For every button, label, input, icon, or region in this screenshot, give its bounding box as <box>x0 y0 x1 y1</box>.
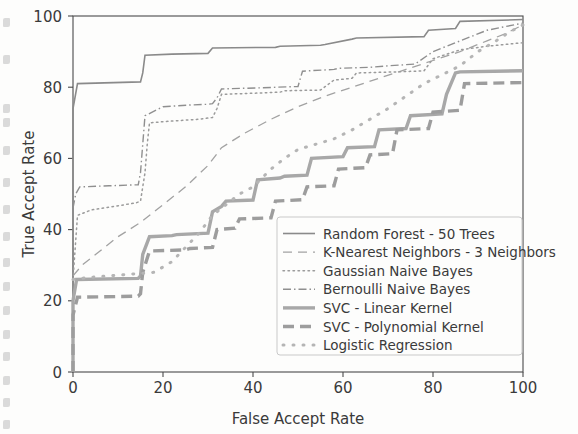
legend-entry-label: SVC - Polynomial Kernel <box>323 319 484 335</box>
y-tick-label: 60 <box>43 150 62 168</box>
x-axis-label: False Accept Rate <box>232 410 365 428</box>
y-tick-label: 80 <box>43 79 62 97</box>
y-tick-label: 20 <box>43 292 62 310</box>
x-tick-label: 40 <box>243 379 262 397</box>
x-tick-label: 100 <box>509 379 538 397</box>
legend-entry-label: Random Forest - 50 Trees <box>323 226 495 242</box>
series-line <box>73 23 523 208</box>
x-tick-label: 20 <box>153 379 172 397</box>
y-axis-ticks: 020406080100 <box>33 8 73 382</box>
roc-chart-figure: 020406080100 020406080100 False Accept R… <box>0 0 578 434</box>
legend-entry-label: K-Nearest Neighbors - 3 Neighbors <box>323 244 556 260</box>
x-tick-label: 60 <box>333 379 352 397</box>
y-tick-label: 0 <box>52 364 62 382</box>
legend-entry-label: Gaussian Naive Bayes <box>323 263 473 279</box>
chart-canvas: 020406080100 020406080100 False Accept R… <box>0 0 578 434</box>
y-tick-label: 40 <box>43 221 62 239</box>
x-tick-label: 80 <box>423 379 442 397</box>
y-tick-label: 100 <box>33 8 62 26</box>
x-axis-ticks: 020406080100 <box>68 372 537 397</box>
legend: Random Forest - 50 TreesK-Nearest Neighb… <box>277 217 556 355</box>
legend-entry-label: Bernoulli Naive Bayes <box>323 281 470 297</box>
legend-entry-label: SVC - Linear Kernel <box>323 300 452 316</box>
legend-entry-label: Logistic Regression <box>323 337 453 353</box>
y-axis-label: True Accept Rate <box>20 131 38 259</box>
x-tick-label: 0 <box>68 379 78 397</box>
